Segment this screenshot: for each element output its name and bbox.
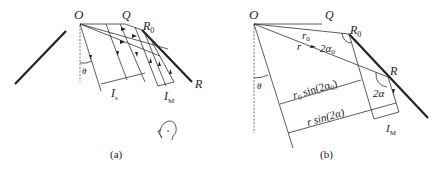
ray-O-2 (80, 24, 168, 49)
figure-a: O Q R0 R θ Is IM a (a) (15, 7, 203, 161)
caption-a: (a) (110, 148, 123, 161)
label-r-sin: r sin(2α) (305, 106, 346, 129)
theta-arc (254, 75, 268, 78)
observer-head-icon: a (158, 121, 176, 140)
label-IM: IM (385, 122, 397, 137)
label-O: O (249, 7, 259, 22)
IM-bracket (374, 112, 399, 119)
label-Q: Q (122, 8, 131, 22)
theta-arc (80, 61, 92, 63)
label-R0: R0 (349, 23, 361, 39)
arrow-down-icon (169, 69, 172, 74)
line-Q-R0 (125, 24, 142, 30)
label-theta: θ (82, 66, 87, 76)
label-2alpha: 2α (373, 87, 385, 99)
arrow-up-icon (149, 58, 152, 63)
label-Q: Q (325, 8, 334, 22)
svg-text:a: a (167, 128, 170, 133)
arrow-right-icon (121, 27, 126, 31)
arrow-up-icon (158, 61, 161, 66)
ray-down-3 (120, 24, 145, 82)
label-R: R (389, 64, 398, 78)
figure-b: O Q R0 R θ r0 r 2α0 2α r0 sin(2α0) r sin… (249, 7, 428, 161)
label-2alpha0: 2α0 (320, 42, 335, 56)
label-Is: Is (110, 86, 118, 102)
label-theta: θ (257, 81, 262, 91)
arrow-down-icon (89, 55, 92, 60)
caption-b: (b) (320, 148, 333, 161)
label-R: R (194, 77, 203, 91)
label-O: O (74, 7, 84, 22)
ray-down-6 (152, 42, 174, 82)
left-wall (15, 31, 66, 84)
arrow-right-icon (132, 34, 137, 38)
diagram-canvas: O Q R0 R θ Is IM a (a) (0, 0, 440, 170)
label-r: r (297, 40, 302, 52)
label-r0: r0 (302, 29, 310, 43)
label-R0: R0 (142, 19, 154, 35)
thick-surface-R0-R (142, 30, 192, 82)
label-IM: IM (163, 89, 175, 105)
Is-bracket (101, 73, 145, 84)
arrow-down-icon (135, 52, 138, 57)
label-r0-sin: r0 sin(2α0) (291, 77, 339, 103)
